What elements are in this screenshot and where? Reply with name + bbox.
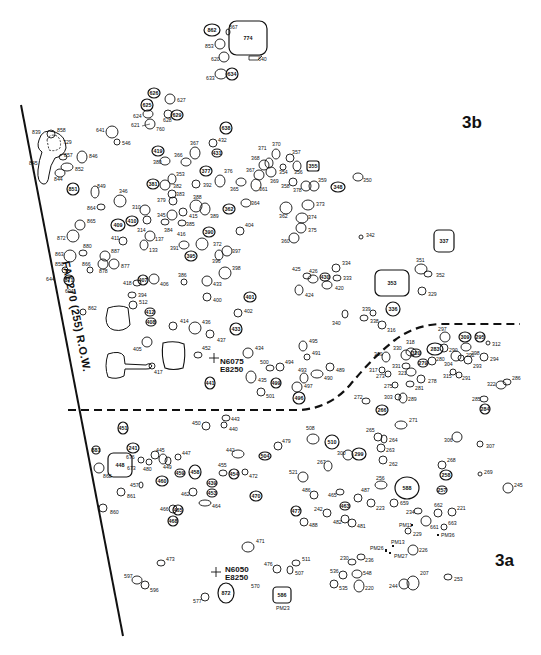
feature-label: 577 xyxy=(193,598,202,604)
feature-label: 283 xyxy=(431,346,440,352)
feature-label: 481 xyxy=(357,523,366,529)
feature-label: 370 xyxy=(272,141,281,147)
feature-label: 275 xyxy=(384,383,393,389)
feature-378-outline xyxy=(301,181,311,191)
feature-label: 414 xyxy=(180,318,189,324)
feature-label: 488 xyxy=(309,522,318,528)
feature-label: 419 xyxy=(154,148,163,154)
feature-label: 480 xyxy=(143,466,152,472)
feature-620-outline xyxy=(219,52,229,62)
feature-label: 384 xyxy=(164,227,173,233)
feature-446-outline xyxy=(159,454,167,464)
feature-298-outline xyxy=(461,343,471,351)
feature-label: 394 xyxy=(138,292,147,298)
feature-label: 396 xyxy=(212,258,221,264)
feature-label: 348 xyxy=(334,184,343,190)
feature-352-outline xyxy=(424,271,432,277)
feature-label: 281 xyxy=(415,385,424,391)
feature-label: 586 xyxy=(278,592,287,598)
feature-label: 322 xyxy=(487,381,496,387)
feature-450-outline xyxy=(202,422,210,430)
feature-label: 318 xyxy=(406,339,415,345)
feature-339-outline xyxy=(370,310,376,316)
feature-label: 479 xyxy=(282,438,291,444)
feature-846-outline xyxy=(77,151,87,163)
feature-493-outline xyxy=(300,373,308,383)
feature-label: 279 xyxy=(419,360,428,366)
feature-label: 465 xyxy=(328,492,337,498)
feature-861-outline xyxy=(117,488,125,496)
feature-label: 624 xyxy=(133,113,142,119)
feature-label: 295 xyxy=(476,334,485,340)
feature-label: 852 xyxy=(75,166,84,172)
feature-334-outline xyxy=(332,264,340,272)
feature-label: 463 xyxy=(341,503,350,509)
feature-label: 404 xyxy=(245,222,254,228)
feature-label: 268 xyxy=(447,457,456,463)
feature-268-outline xyxy=(438,461,446,469)
feature-294-outline xyxy=(480,353,488,361)
feature-label: 454 xyxy=(230,471,239,477)
feature-label: 472 xyxy=(249,473,258,479)
feature-338-outline xyxy=(360,315,368,321)
feature-411-outline xyxy=(119,237,127,245)
feature-508-outline xyxy=(307,434,319,444)
feature-label: 304 xyxy=(444,361,453,367)
feature-342-outline xyxy=(359,235,363,239)
feature-label: 462 xyxy=(181,491,190,497)
feature-label: 379 xyxy=(157,197,166,203)
feature-label: 342 xyxy=(366,232,375,238)
feature-label: 389 xyxy=(210,213,219,219)
feature-label: 374 xyxy=(308,214,317,220)
feature-label: 207 xyxy=(420,570,429,576)
feature-label: 388 xyxy=(193,194,202,200)
feature-536-outline xyxy=(339,571,347,579)
feature-label: 316 xyxy=(387,327,396,333)
feature-400-outline xyxy=(203,293,211,301)
feature-229-outline xyxy=(405,528,411,534)
feature-label: 511 xyxy=(302,556,310,562)
feature-280-outline xyxy=(428,357,436,365)
feature-label: 426 xyxy=(309,268,318,274)
feature-label: 459 xyxy=(176,470,185,476)
feature-label: 476 xyxy=(264,561,273,567)
feature-label: 497 xyxy=(304,383,313,389)
feature-label: 638 xyxy=(222,125,231,131)
feature-label: 440 xyxy=(229,426,238,432)
feature-501-outline xyxy=(257,388,265,396)
feature-label: 371 xyxy=(258,145,267,151)
feature-label: 449 xyxy=(163,464,172,470)
feature-397-outline xyxy=(222,246,232,256)
feature-label: 860 xyxy=(110,509,119,515)
feature-472-outline xyxy=(242,469,248,475)
labels-layer: 8628677748536206406336346266276256296286… xyxy=(29,24,523,611)
feature-label: 853 xyxy=(205,43,214,49)
feature-label: 299 xyxy=(355,451,364,457)
feature-label: 334 xyxy=(342,260,351,266)
feature-310-outline xyxy=(140,205,150,215)
feature-label: 425 xyxy=(292,266,301,272)
feature-label: 486 xyxy=(302,487,311,493)
feature-label: 290 xyxy=(449,347,458,353)
feature-label: 510 xyxy=(328,439,337,445)
feature-label: PM27 xyxy=(394,553,408,559)
area-label-3a: 3a xyxy=(495,551,514,570)
feature-253-outline xyxy=(444,574,452,580)
feature-633-outline xyxy=(215,69,227,79)
feature-486-outline xyxy=(310,491,318,499)
feature-label: 866 xyxy=(82,261,91,267)
feature-263-outline xyxy=(377,444,385,452)
feature-label: 321 xyxy=(398,370,407,376)
feature-label: 496 xyxy=(295,395,304,401)
feature-label: 491 xyxy=(312,350,321,356)
feature-415-outline xyxy=(179,208,187,216)
feature-402-outline xyxy=(234,309,242,317)
feature-376-outline xyxy=(215,175,225,187)
feature-465-outline xyxy=(336,489,344,495)
feature-label: 868 xyxy=(103,473,112,479)
feature-label: 336 xyxy=(389,306,398,312)
feature-label: 465 xyxy=(174,507,183,513)
feature-label: 535 xyxy=(339,585,348,591)
feature-label: 395 xyxy=(187,253,196,259)
feature-label: 314 xyxy=(137,227,146,233)
